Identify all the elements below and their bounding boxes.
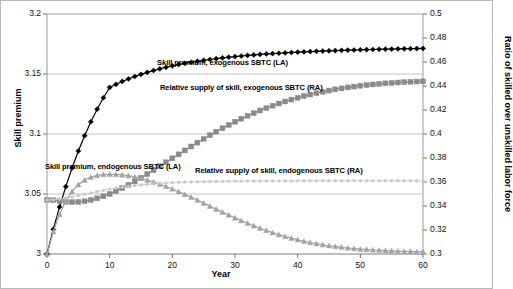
data-point-triangle bbox=[82, 177, 87, 182]
data-point-square bbox=[258, 108, 263, 113]
data-point-dot bbox=[121, 186, 124, 189]
x-tick-label: 10 bbox=[94, 260, 126, 270]
data-point-dot bbox=[302, 179, 305, 182]
data-point-diamond bbox=[402, 46, 407, 51]
data-point-dot bbox=[290, 179, 293, 182]
data-point-dot bbox=[221, 180, 224, 183]
data-point-square bbox=[421, 79, 426, 84]
x-tick-label: 40 bbox=[282, 260, 314, 270]
x-tick-label: 50 bbox=[344, 260, 376, 270]
data-point-dot bbox=[83, 193, 86, 196]
data-point-square bbox=[358, 83, 363, 88]
series-label-2: Skill premium, endogenous SBTC (LA) bbox=[45, 162, 181, 171]
data-point-square bbox=[264, 106, 269, 111]
data-point-dot bbox=[309, 179, 312, 182]
data-point-square bbox=[377, 81, 382, 86]
data-point-dot bbox=[89, 191, 92, 194]
data-point-square bbox=[76, 199, 81, 204]
chart-plot-area bbox=[1, 1, 494, 289]
data-point-diamond bbox=[289, 50, 294, 55]
data-point-dot bbox=[321, 179, 324, 182]
data-point-square bbox=[101, 194, 106, 199]
data-point-square bbox=[107, 191, 112, 196]
data-point-diamond bbox=[345, 48, 350, 53]
data-point-square bbox=[364, 83, 369, 88]
data-point-diamond bbox=[283, 50, 288, 55]
data-point-square bbox=[176, 152, 181, 157]
data-point-diamond bbox=[120, 79, 125, 84]
y-tick-label-left: 3 bbox=[5, 248, 41, 258]
data-point-square bbox=[201, 136, 206, 141]
data-point-dot bbox=[252, 180, 255, 183]
data-point-square bbox=[95, 196, 100, 201]
data-point-diamond bbox=[113, 82, 118, 87]
series-label-3: Relative supply of skill, endogenous SBT… bbox=[195, 166, 363, 175]
data-point-dot bbox=[202, 180, 205, 183]
data-point-dot bbox=[102, 189, 105, 192]
data-point-square bbox=[308, 92, 313, 97]
y-tick-label-right: 0.36 bbox=[430, 176, 464, 186]
data-point-dot bbox=[52, 198, 55, 201]
data-point-square bbox=[251, 111, 256, 116]
y-axis-left-title: Skill premium bbox=[13, 63, 23, 173]
data-point-dot bbox=[227, 180, 230, 183]
data-point-triangle bbox=[207, 203, 212, 208]
y-tick-label-left: 3.05 bbox=[5, 188, 41, 198]
data-point-dot bbox=[171, 181, 174, 184]
data-point-triangle bbox=[232, 215, 237, 220]
data-point-square bbox=[170, 156, 175, 161]
data-point-diamond bbox=[377, 47, 382, 52]
series-line-0 bbox=[47, 48, 423, 254]
data-point-dot bbox=[390, 179, 393, 182]
data-point-diamond bbox=[138, 72, 143, 77]
data-point-dot bbox=[277, 179, 280, 182]
data-point-dot bbox=[353, 179, 356, 182]
data-point-square bbox=[402, 80, 407, 85]
data-point-square bbox=[408, 79, 413, 84]
data-point-dot bbox=[64, 197, 67, 200]
data-point-dot bbox=[114, 187, 117, 190]
data-point-diamond bbox=[107, 85, 112, 90]
data-point-dot bbox=[396, 179, 399, 182]
data-point-diamond bbox=[314, 49, 319, 54]
y-tick-label-left: 3.1 bbox=[5, 128, 41, 138]
data-point-dot bbox=[215, 180, 218, 183]
data-point-diamond bbox=[88, 119, 93, 124]
data-point-dot bbox=[415, 179, 418, 182]
data-point-square bbox=[189, 144, 194, 149]
data-point-dot bbox=[340, 179, 343, 182]
x-axis-title: Year bbox=[1, 269, 441, 279]
data-point-square bbox=[132, 179, 137, 184]
data-point-dot bbox=[58, 198, 61, 201]
data-point-dot bbox=[271, 179, 274, 182]
y-tick-label-right: 0.3 bbox=[430, 248, 464, 258]
data-point-dot bbox=[384, 179, 387, 182]
y-tick-label-left: 3.15 bbox=[5, 68, 41, 78]
data-point-diamond bbox=[389, 46, 394, 51]
data-point-dot bbox=[234, 180, 237, 183]
data-point-triangle bbox=[214, 206, 219, 211]
data-point-diamond bbox=[251, 52, 256, 57]
data-point-square bbox=[370, 82, 375, 87]
data-point-dot bbox=[133, 184, 136, 187]
series-label-0: Skill premium, exogenous SBTC (LA) bbox=[157, 58, 288, 67]
data-point-square bbox=[233, 119, 238, 124]
y-tick-label-right: 0.44 bbox=[430, 80, 464, 90]
data-point-square bbox=[339, 86, 344, 91]
data-point-dot bbox=[315, 179, 318, 182]
data-point-square bbox=[226, 123, 231, 128]
data-point-dot bbox=[71, 195, 74, 198]
data-point-dot bbox=[96, 190, 99, 193]
data-point-dot bbox=[296, 179, 299, 182]
data-point-diamond bbox=[63, 184, 68, 189]
data-point-diamond bbox=[420, 46, 425, 51]
data-point-diamond bbox=[339, 48, 344, 53]
data-point-diamond bbox=[151, 68, 156, 73]
data-point-dot bbox=[46, 199, 49, 202]
y-tick-label-right: 0.48 bbox=[430, 32, 464, 42]
data-point-dot bbox=[259, 180, 262, 183]
data-point-square bbox=[182, 148, 187, 153]
data-point-diamond bbox=[326, 48, 331, 53]
y-tick-label-left: 3.2 bbox=[5, 8, 41, 18]
